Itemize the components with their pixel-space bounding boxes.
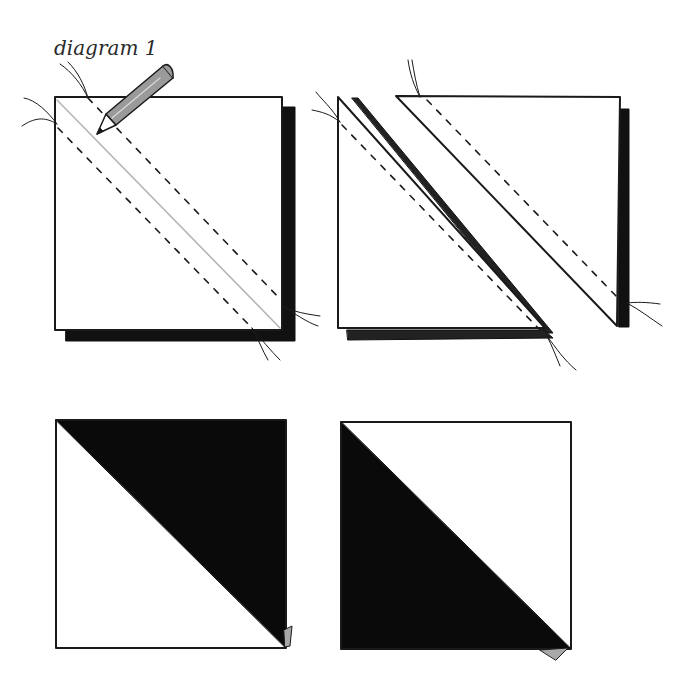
panel-step-3 [56,420,292,648]
quilting-diagram [0,0,693,684]
thread-tail [547,336,576,370]
dark-triangle [341,422,570,648]
dark-strip-bottom [347,330,553,340]
dog-ear [284,626,292,647]
thread-tail [627,302,662,326]
thread-tail [408,60,420,97]
dog-ear [540,648,568,660]
thread-tail [22,98,57,126]
panel-step-1 [22,62,320,360]
panel-step-4 [341,422,571,660]
panel-step-2 [312,60,662,370]
dark-strip-right [619,109,629,327]
dark-triangle [56,420,286,647]
thread-tail [60,62,88,98]
thread-tail [312,92,340,122]
